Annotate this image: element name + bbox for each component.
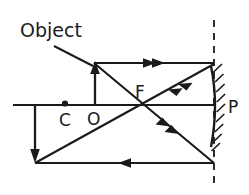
image-arrow <box>30 105 40 163</box>
centre-of-curvature-dot <box>62 100 68 106</box>
object-label-pointer-line <box>54 46 93 66</box>
mirror-hatch-mark <box>217 94 225 102</box>
ray-direction-arrow-left <box>118 158 131 168</box>
ray-direction-chevron <box>168 88 183 96</box>
point-label-f: F <box>135 82 145 102</box>
mirror-hatch-mark <box>215 74 223 82</box>
reflected-parallel-ray <box>35 158 214 168</box>
ray-direction-chevron <box>156 118 171 127</box>
mirror-hatch-mark <box>215 124 223 132</box>
ray-diagram-figure: Object C O F P <box>0 0 249 195</box>
point-label-p: P <box>228 97 238 117</box>
incident-ray-through-focus-line <box>94 63 214 163</box>
mirror-hatch-mark <box>217 104 225 112</box>
point-label-o: O <box>87 109 100 129</box>
point-label-c: C <box>59 110 71 130</box>
optics-ray-diagram-canvas: Object C O F P <box>0 0 249 195</box>
incident-parallel-ray <box>94 58 214 68</box>
mirror-hatch-mark <box>212 143 220 151</box>
ray-direction-chevron <box>165 125 180 134</box>
object-label: Object <box>20 19 82 41</box>
mirror-hatch-mark <box>216 114 224 122</box>
incident-ray-through-focus <box>94 63 214 163</box>
mirror-hatch-mark <box>216 84 224 92</box>
ray-direction-chevron <box>152 58 165 68</box>
